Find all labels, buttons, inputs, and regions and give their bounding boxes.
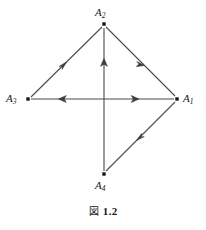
- figure-caption-number: 1.2: [103, 205, 118, 217]
- vertex-label-a3-subscript: 3: [13, 97, 17, 106]
- vertex-label-a4-subscript: 4: [102, 184, 106, 193]
- edge-a1-to-a3: [31, 96, 174, 103]
- vertex-label-a1: A1: [183, 93, 193, 104]
- vertex-label-a4: A4: [95, 180, 105, 191]
- figure-caption: 図1.2: [0, 203, 206, 218]
- vertex-label-a2-subscript: 2: [102, 11, 106, 20]
- edge-a1-to-a4: [106, 102, 175, 171]
- vertex-label-a3: A3: [6, 93, 16, 104]
- figure-container: A2 A3 A1 A4 図1.2: [0, 0, 206, 230]
- vertex-label-a1-base: A: [183, 92, 190, 104]
- edge-a2-to-a1: [106, 27, 175, 96]
- vertex-dot-a1: [175, 97, 178, 100]
- vertex-dot-a2: [102, 22, 105, 25]
- edge-a3-to-a2: [31, 27, 102, 97]
- vertex-label-a2: A2: [95, 7, 105, 18]
- vertex-dot-a3: [26, 97, 29, 100]
- vertex-label-a2-base: A: [95, 6, 102, 18]
- vertex-label-a1-subscript: 1: [190, 97, 194, 106]
- figure-caption-prefix: 図: [89, 206, 99, 217]
- directed-graph-diagram: [0, 0, 206, 230]
- edge-line-a2-a1: [106, 27, 175, 96]
- vertex-dot-a4: [102, 172, 105, 175]
- vertex-label-a3-base: A: [6, 92, 13, 104]
- vertex-label-a4-base: A: [95, 179, 102, 191]
